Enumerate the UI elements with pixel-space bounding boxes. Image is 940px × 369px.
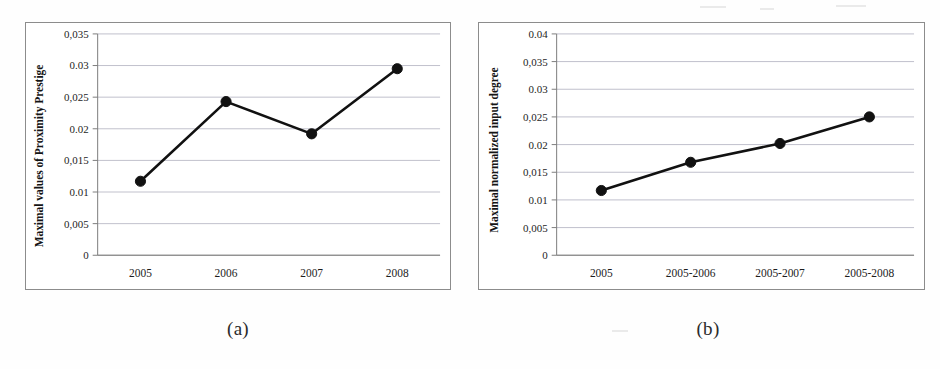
y-tick-label: 0 [542, 249, 548, 261]
y-tick-label: 0,035 [523, 56, 548, 68]
chart-panel-b: Maximal normalized input degree 00,0050.… [478, 22, 925, 290]
y-axis-title-b: Maximal normalized input degree [488, 67, 501, 232]
y-tick-labels-a: 00,0050.010,0150.020,0250.030,035 [64, 28, 89, 261]
y-tick-label: 0,005 [523, 222, 548, 234]
x-tick-label: 2005 [129, 267, 152, 279]
y-tick-label: 0.03 [529, 83, 549, 95]
x-tick-labels-b: 20052005-20062005-20072005-2008 [590, 267, 895, 279]
data-point-marker [392, 64, 402, 74]
figure-caption-b: (b) [476, 318, 940, 340]
x-tick-label: 2008 [386, 267, 409, 279]
grid-lines-a [98, 34, 440, 255]
y-tick-labels-b: 00,0050.010,0150.020,0250.030,0350.04 [523, 28, 548, 261]
scan-speck [836, 5, 866, 7]
y-tick-label: 0,015 [64, 154, 89, 166]
data-point-marker [596, 185, 606, 195]
x-tick-label: 2005-2006 [666, 267, 716, 279]
y-tick-label: 0,005 [64, 218, 89, 230]
y-tick-label: 0,015 [523, 166, 548, 178]
data-point-marker [135, 176, 145, 186]
y-tick-label: 0.02 [70, 123, 89, 135]
series-line-a [140, 69, 397, 182]
chart-panel-a: Maximal values of Proximity Prestige 00,… [25, 22, 451, 290]
series-line-b [601, 117, 869, 191]
data-point-marker [775, 138, 785, 148]
axis-ticks-b [552, 34, 557, 255]
scan-speck [612, 330, 628, 332]
scan-speck [760, 8, 774, 10]
y-tick-label: 0.02 [529, 139, 548, 151]
series-markers-a [135, 64, 402, 187]
x-tick-label: 2005-2008 [845, 267, 895, 279]
figure-page: Maximal values of Proximity Prestige 00,… [0, 0, 940, 369]
y-tick-label: 0.03 [70, 60, 90, 72]
axis-ticks-a [93, 34, 98, 255]
y-tick-label: 0.01 [529, 194, 548, 206]
y-tick-label: 0.01 [70, 186, 89, 198]
figure-caption-a: (a) [0, 318, 476, 340]
x-tick-label: 2006 [215, 267, 238, 279]
y-tick-label: 0 [83, 249, 89, 261]
data-point-marker [686, 157, 696, 167]
y-tick-label: 0,035 [64, 28, 89, 40]
data-point-marker [307, 129, 317, 139]
x-tick-label: 2007 [300, 267, 323, 279]
line-chart-b: Maximal normalized input degree 00,0050.… [479, 23, 924, 289]
x-tick-label: 2005-2007 [755, 267, 805, 279]
y-tick-label: 0,025 [523, 111, 548, 123]
data-point-marker [864, 112, 874, 122]
x-tick-label: 2005 [590, 267, 613, 279]
scan-speck [700, 6, 726, 8]
line-chart-a: Maximal values of Proximity Prestige 00,… [26, 23, 450, 289]
y-tick-label: 0,025 [64, 91, 89, 103]
grid-lines-b [557, 34, 914, 255]
y-axis-title-a: Maximal values of Proximity Prestige [33, 65, 46, 248]
x-tick-labels-a: 2005200620072008 [129, 267, 409, 279]
data-point-marker [221, 97, 231, 107]
y-tick-label: 0.04 [529, 28, 549, 40]
